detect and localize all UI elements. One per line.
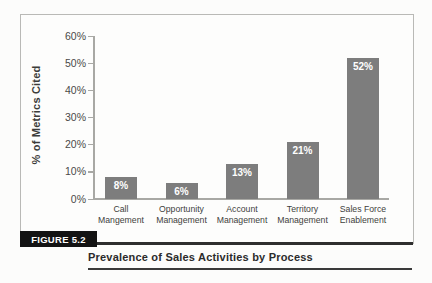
y-tick-mark [88, 90, 94, 91]
y-tick-mark [88, 199, 94, 200]
y-tick-label: 30% [52, 111, 86, 123]
bar-value-label: 6% [166, 186, 198, 197]
y-tick-label: 20% [52, 138, 86, 150]
figure-number-tab: FIGURE 5.2 [20, 231, 97, 247]
y-tick-label: 60% [52, 30, 86, 42]
bar-value-label: 8% [105, 180, 137, 191]
y-tick-label: 50% [52, 57, 86, 69]
y-tick-label: 40% [52, 84, 86, 96]
bar [347, 58, 379, 199]
caption-underline [88, 268, 412, 270]
x-category-label: Sales ForceEnablement [327, 204, 399, 226]
figure-number-label: FIGURE 5.2 [31, 234, 86, 245]
y-tick-mark [88, 36, 94, 37]
bar-value-label: 52% [347, 61, 379, 72]
y-tick-mark [88, 117, 94, 118]
y-axis-title-text: % of Metrics Cited [30, 66, 42, 165]
bar-value-label: 21% [287, 145, 319, 156]
y-tick-mark [88, 63, 94, 64]
y-axis-title: % of Metrics Cited [28, 30, 44, 200]
y-tick-mark [88, 144, 94, 145]
y-tick-mark [88, 171, 94, 172]
y-tick-label: 10% [52, 165, 86, 177]
figure-caption: Prevalence of Sales Activities by Proces… [88, 251, 413, 263]
bar-value-label: 13% [226, 167, 258, 178]
y-tick-label: 0% [52, 193, 86, 205]
